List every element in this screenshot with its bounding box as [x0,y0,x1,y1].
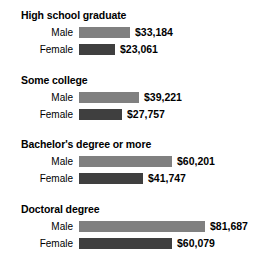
bar-male [79,92,139,103]
bar-row-label: Male [0,221,73,233]
bar-female [79,44,115,55]
bar-row: Male$39,221 [0,91,263,104]
bar-row-label: Female [0,173,73,185]
bar-female [79,109,122,120]
bar-row-label: Female [0,44,73,56]
bar-row-label: Female [0,238,73,250]
bar-row-label: Male [0,92,73,104]
bar-row: Female$23,061 [0,43,263,56]
bar-group-title: Bachelor's degree or more [21,138,151,150]
bar-value-label: $60,079 [177,238,215,249]
education-earnings-bar-chart: High school graduateMale$33,184Female$23… [0,0,263,259]
bar-row: Male$60,201 [0,155,263,168]
bar-row-label: Female [0,109,73,121]
bar-value-label: $41,747 [148,173,186,184]
bar-row: Male$33,184 [0,26,263,39]
bar-row: Female$41,747 [0,172,263,185]
bar-row: Female$60,079 [0,237,263,250]
bar-female [79,173,143,184]
bar-value-label: $23,061 [120,44,158,55]
bar-value-label: $27,757 [127,109,165,120]
bar-row: Female$27,757 [0,108,263,121]
bar-male [79,27,130,38]
bar-row: Male$81,687 [0,220,263,233]
bar-male [79,221,205,232]
bar-value-label: $81,687 [210,221,248,232]
bar-group-title: High school graduate [21,9,126,21]
bar-female [79,238,172,249]
bar-value-label: $39,221 [144,92,182,103]
bar-group-title: Some college [21,74,88,86]
bar-row-label: Male [0,156,73,168]
bar-row-label: Male [0,27,73,39]
bar-value-label: $60,201 [177,156,215,167]
bar-value-label: $33,184 [135,27,173,38]
bar-group-title: Doctoral degree [21,203,99,215]
bar-male [79,156,172,167]
